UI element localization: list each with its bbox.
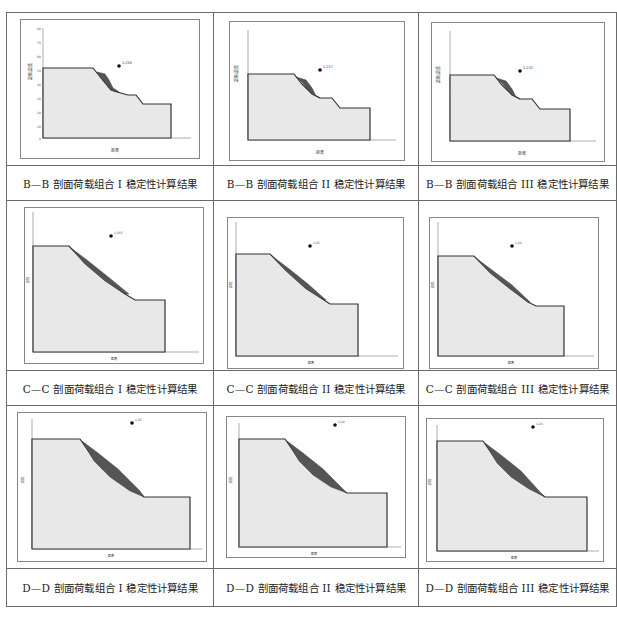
svg-text:距离: 距离 [511, 555, 517, 560]
figure-dd-3: 高程 距离 1.23 [419, 406, 617, 569]
slope-plot-dd-3: 高程 距离 1.23 [426, 418, 604, 562]
figure-bb-2: 高程/高度 距离 1.217 [214, 13, 419, 166]
svg-text:距离: 距离 [108, 553, 114, 558]
svg-text:0: 0 [39, 137, 41, 141]
svg-text:距离: 距离 [316, 149, 324, 155]
svg-text:高程/高度: 高程/高度 [27, 63, 33, 80]
figure-dd-2: 高程 距离 1.22 [214, 406, 419, 569]
caption-cc-1: C—C 剖面荷载组合 I 稳定性计算结果 [7, 371, 214, 406]
svg-text:高程/高度: 高程/高度 [233, 65, 239, 82]
svg-text:距离: 距离 [518, 150, 526, 156]
svg-text:距离: 距离 [308, 360, 314, 365]
slope-plot-bb-2: 高程/高度 距离 1.217 [229, 21, 405, 161]
slope-chart: 80706050403020100 高程/高度 距离 1.255 [21, 20, 199, 158]
slope-chart: 高程 距离 1.25 [228, 218, 403, 368]
figure-cc-1: 高程 距离 1.255 [7, 201, 214, 371]
svg-text:高程: 高程 [25, 277, 30, 283]
slope-plot-bb-3: 高程/高度 距离 1.232 [431, 22, 605, 162]
svg-text:1.23: 1.23 [536, 422, 543, 426]
slope-chart: 高程/高度 距离 1.217 [230, 22, 404, 160]
figure-dd-1: 高程 距离 1.25 [7, 406, 214, 569]
svg-text:1.232: 1.232 [523, 66, 533, 70]
svg-text:距离: 距离 [111, 356, 117, 361]
caption-bb-2: B—B 剖面荷载组合 II 稳定性计算结果 [214, 166, 419, 201]
svg-text:距离: 距离 [111, 147, 119, 153]
svg-text:高程: 高程 [430, 282, 435, 288]
svg-text:20: 20 [37, 111, 41, 115]
svg-text:1.217: 1.217 [323, 65, 333, 69]
svg-text:高程: 高程 [20, 477, 25, 483]
slope-chart: 高程/高度 距离 1.232 [432, 23, 604, 161]
svg-text:1.23: 1.23 [515, 241, 522, 245]
slope-plot-dd-1: 高程 距离 1.25 [17, 412, 207, 562]
svg-text:70: 70 [37, 41, 41, 45]
caption-dd-3: D—D 剖面荷载组合 III 稳定性计算结果 [419, 569, 617, 607]
svg-text:10: 10 [37, 125, 41, 129]
caption-bb-3: B—B 剖面荷载组合 III 稳定性计算结果 [419, 166, 617, 201]
svg-text:1.25: 1.25 [135, 418, 142, 422]
svg-text:80: 80 [37, 27, 41, 31]
caption-cc-2: C—C 剖面荷载组合 II 稳定性计算结果 [214, 371, 419, 406]
results-table: 80706050403020100 高程/高度 距离 1.255 高程/高度 [6, 12, 617, 607]
caption-dd-1: D—D 剖面荷载组合 I 稳定性计算结果 [7, 569, 214, 607]
slope-plot-cc-3: 高程 距离 1.23 [429, 217, 599, 369]
svg-text:40: 40 [37, 83, 41, 87]
slope-chart: 高程 距离 1.23 [430, 218, 598, 368]
slope-chart: 高程 距离 1.22 [227, 417, 405, 557]
slope-plot-cc-1: 高程 距离 1.255 [24, 207, 204, 364]
svg-text:高程: 高程 [228, 282, 233, 288]
svg-text:1.255: 1.255 [114, 231, 123, 235]
svg-text:1.255: 1.255 [122, 61, 132, 65]
slope-plot-cc-2: 高程 距离 1.25 [227, 217, 404, 369]
svg-text:高程: 高程 [228, 477, 233, 483]
slope-chart: 高程 距离 1.23 [427, 419, 603, 561]
slope-plot-dd-2: 高程 距离 1.22 [226, 416, 406, 558]
svg-text:高程: 高程 [427, 479, 432, 485]
figure-cc-2: 高程 距离 1.25 [214, 201, 419, 371]
svg-text:距离: 距离 [311, 551, 317, 556]
figure-bb-1: 80706050403020100 高程/高度 距离 1.255 [7, 13, 214, 166]
caption-cc-3: C—C 剖面荷载组合 III 稳定性计算结果 [419, 371, 617, 406]
svg-text:1.22: 1.22 [338, 420, 345, 424]
caption-dd-2: D—D 剖面荷载组合 II 稳定性计算结果 [214, 569, 419, 607]
figure-bb-3: 高程/高度 距离 1.232 [419, 13, 617, 166]
svg-text:1.25: 1.25 [313, 241, 320, 245]
caption-bb-1: B—B 剖面荷载组合 I 稳定性计算结果 [7, 166, 214, 201]
svg-text:高程/高度: 高程/高度 [435, 66, 441, 83]
svg-text:30: 30 [37, 97, 41, 101]
slope-chart: 高程 距离 1.255 [25, 208, 203, 363]
slope-chart: 高程 距离 1.25 [18, 413, 206, 561]
slope-plot-bb-1: 80706050403020100 高程/高度 距离 1.255 [20, 19, 200, 159]
svg-text:距离: 距离 [508, 360, 514, 365]
svg-text:50: 50 [37, 69, 41, 73]
svg-text:60: 60 [37, 55, 41, 59]
figure-cc-3: 高程 距离 1.23 [419, 201, 617, 371]
